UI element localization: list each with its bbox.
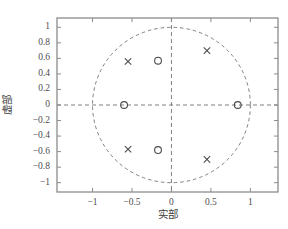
y-tick-label: −0.2	[0, 116, 50, 126]
y-tick-label: 1	[0, 23, 50, 33]
x-tick-label: −0.5	[123, 198, 140, 208]
y-tick-label: −0.4	[0, 131, 50, 141]
x-tick-label: 1	[248, 198, 253, 208]
y-tick-label: 0.2	[0, 85, 50, 95]
y-tick-label: 0.8	[0, 38, 50, 48]
x-tick-label: −1	[87, 198, 97, 208]
y-tick-label: 0.6	[0, 54, 50, 64]
y-tick-label: −1	[0, 178, 50, 188]
x-tick-label: 0.5	[205, 198, 217, 208]
y-tick-label: 0.4	[0, 69, 50, 79]
x-axis-label: 实部	[158, 210, 178, 221]
y-tick-label: −0.8	[0, 162, 50, 172]
y-axis-label: 虚部	[3, 95, 14, 115]
y-tick-label: −0.6	[0, 147, 50, 157]
axes-frame	[57, 18, 278, 192]
pole-zero-plot-figure: 10.80.60.40.20−0.2−0.4−0.6−0.8−1 −1−0.50…	[0, 0, 288, 229]
x-tick-label: 0	[169, 198, 174, 208]
